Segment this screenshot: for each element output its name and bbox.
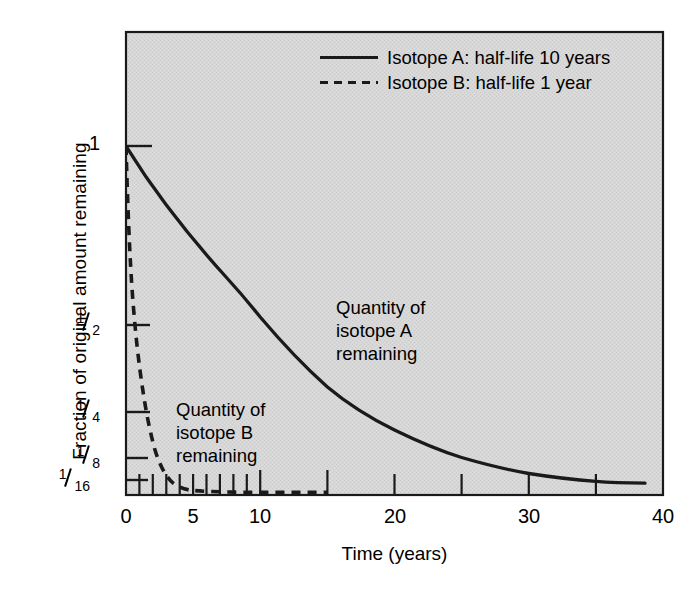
annotation-isotope-b-line3: remaining [176, 444, 265, 467]
decay-chart-figure: 1 12 14 18 116 0 5 10 20 30 40 Fraction … [0, 0, 696, 598]
annotation-isotope-a-line3: remaining [336, 342, 425, 365]
legend-label-isotope-b: Isotope B: half-life 1 year [387, 70, 592, 95]
x-tick-label-20: 20 [365, 505, 425, 528]
x-tick-label-5: 5 [163, 505, 223, 528]
x-tick-label-30: 30 [499, 505, 559, 528]
y-axis-title: Fraction of original amount remaining [69, 91, 91, 511]
annotation-isotope-b-line1: Quantity of [176, 398, 265, 421]
annotation-isotope-a-line1: Quantity of [336, 296, 425, 319]
annotation-isotope-a-line2: isotope A [336, 319, 425, 342]
annotation-isotope-b: Quantity of isotope B remaining [176, 398, 265, 467]
x-tick-label-40: 40 [633, 505, 693, 528]
legend-entry-isotope-a: Isotope A: half-life 10 years [320, 45, 610, 70]
annotation-isotope-a: Quantity of isotope A remaining [336, 296, 425, 365]
annotation-isotope-b-line2: isotope B [176, 421, 265, 444]
legend-line-dashed-icon [320, 77, 378, 89]
legend-line-solid-icon [320, 52, 378, 64]
legend: Isotope A: half-life 10 years Isotope B:… [320, 45, 610, 95]
legend-label-isotope-a: Isotope A: half-life 10 years [387, 45, 610, 70]
legend-entry-isotope-b: Isotope B: half-life 1 year [320, 70, 610, 95]
x-axis-title: Time (years) [126, 543, 663, 565]
x-tick-label-10: 10 [230, 505, 290, 528]
x-tick-label-0: 0 [96, 505, 156, 528]
